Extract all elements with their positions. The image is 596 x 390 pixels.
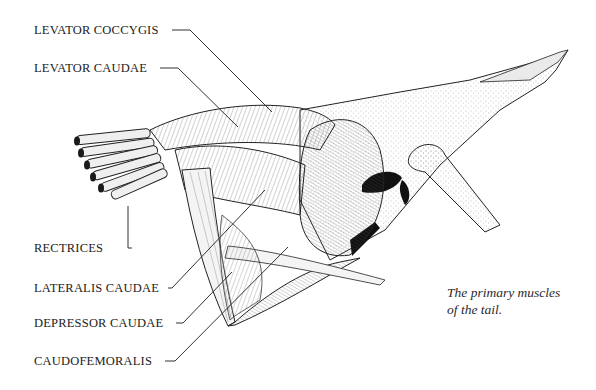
label-levator-coccygis: LEVATOR COCCYGIS (34, 24, 159, 37)
label-lateralis-caudae: LATERALIS CAUDAE (34, 282, 159, 295)
tail-illustration (0, 0, 596, 390)
leader-rectrices (128, 206, 132, 248)
diagram-canvas: LEVATOR COCCYGIS LEVATOR CAUDAE RECTRICE… (0, 0, 596, 390)
label-depressor-caudae: DEPRESSOR CAUDAE (34, 317, 163, 330)
femur-bone (408, 144, 500, 232)
figure-caption: The primary muscles of the tail. (447, 284, 560, 318)
label-rectrices: RECTRICES (34, 242, 103, 255)
label-caudofemoralis: CAUDOFEMORALIS (34, 355, 152, 368)
leader-levator-coccygis (172, 30, 272, 112)
caption-line-2: of the tail. (447, 301, 560, 318)
caption-line-1: The primary muscles (447, 284, 560, 301)
label-levator-caudae: LEVATOR CAUDAE (34, 62, 147, 75)
